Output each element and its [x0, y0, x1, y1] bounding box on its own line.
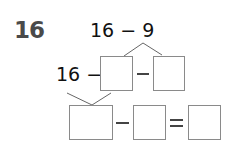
- answer-box-4[interactable]: [133, 105, 166, 140]
- answer-box-1[interactable]: [100, 56, 133, 91]
- minus-sign: [116, 122, 129, 124]
- equals-sign-top: [170, 119, 183, 121]
- answer-box-2[interactable]: [153, 56, 185, 91]
- answer-box-3[interactable]: [69, 105, 113, 140]
- equals-sign-bottom: [170, 125, 183, 127]
- answer-box-5[interactable]: [188, 105, 221, 140]
- minus-sign: [137, 73, 149, 75]
- row2-prefix: 16 −: [56, 65, 102, 84]
